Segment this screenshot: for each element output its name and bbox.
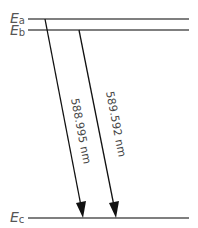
transition-b-c-wavelength-label: 589.592 nm xyxy=(103,90,128,158)
energy-level-c-label: Ec xyxy=(10,209,24,225)
transition-a-c-arrowhead xyxy=(76,201,86,218)
transition-a-c-wavelength-label: 588.995 nm xyxy=(68,97,93,165)
transition-b-c-arrowhead xyxy=(109,201,119,218)
energy-level-diagram: Ea Eb Ec 588.995 nm 589.592 nm xyxy=(0,0,198,228)
